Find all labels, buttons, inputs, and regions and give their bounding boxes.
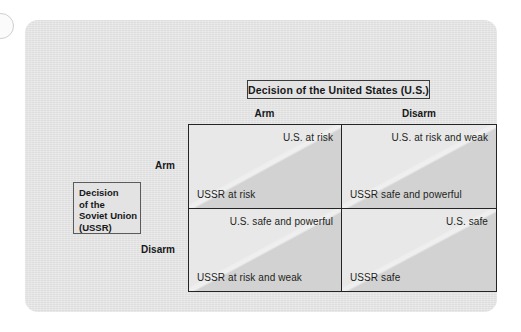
row-group-title-box: Decision of the Soviet Union (USSR) [73,182,141,234]
payoff-ussr-arm-arm: USSR at risk [197,189,255,200]
payoff-us-disarm-disarm: U.S. safe [446,216,488,227]
row-group-title-line-3: Soviet Union [79,210,140,222]
column-header-disarm: Disarm [341,108,497,119]
payoff-us-disarm-arm: U.S. safe and powerful [230,216,333,227]
figure-card: Decision of the United States (U.S.) Arm… [25,20,497,312]
row-group-title-line-2: of the [79,199,140,211]
column-header-arm: Arm [188,108,341,119]
column-group-title-box: Decision of the United States (U.S.) [247,80,430,99]
payoff-ussr-disarm-arm: USSR at risk and weak [197,272,302,283]
matrix-cell-disarm-disarm: U.S. safe USSR safe [342,209,496,291]
payoff-ussr-arm-disarm: USSR safe and powerful [350,189,462,200]
row-header-arm: Arm [85,160,175,171]
matrix-cell-arm-arm: U.S. at risk USSR at risk [189,125,342,209]
payoff-matrix: U.S. at risk USSR at risk U.S. at risk a… [188,124,497,292]
row-group-title-line-1: Decision [79,187,140,199]
column-group-title: Decision of the United States (U.S.) [248,84,429,96]
decorative-circle-mark [0,13,14,39]
row-header-disarm: Disarm [85,244,175,255]
payoff-us-arm-disarm: U.S. at risk and weak [391,132,488,143]
matrix-cell-arm-disarm: U.S. at risk and weak USSR safe and powe… [342,125,496,209]
matrix-cell-disarm-arm: U.S. safe and powerful USSR at risk and … [189,209,342,291]
row-group-title-line-4: (USSR) [79,222,140,234]
payoff-us-arm-arm: U.S. at risk [283,132,333,143]
payoff-ussr-disarm-disarm: USSR safe [350,272,400,283]
